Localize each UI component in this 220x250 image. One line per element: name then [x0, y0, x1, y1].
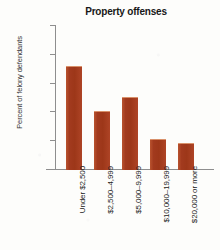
- y-axis-title: Percent of felony defendants: [15, 21, 24, 145]
- x-tick-label: $10,000–19,999: [162, 166, 171, 246]
- x-tick-label: $20,000 or more: [190, 166, 199, 246]
- bar: [66, 66, 82, 170]
- y-tick-mark: [50, 169, 55, 170]
- y-tick-mark: [50, 54, 55, 55]
- chart-title: Property offenses: [46, 6, 206, 17]
- bar: [122, 97, 138, 170]
- y-tick-mark: [50, 111, 55, 112]
- x-tick-label: $2,500–4,999: [106, 166, 115, 246]
- plot-area: [56, 25, 214, 170]
- y-tick-mark: [50, 83, 55, 84]
- bar: [94, 111, 110, 170]
- y-tick-mark: [50, 25, 55, 26]
- y-tick-mark: [50, 140, 55, 141]
- x-tick-label: $5,000–9,999: [134, 166, 143, 246]
- bar-chart: Property offenses Percent of felony defe…: [0, 0, 220, 250]
- x-tick-label: Under $2,500: [78, 166, 87, 246]
